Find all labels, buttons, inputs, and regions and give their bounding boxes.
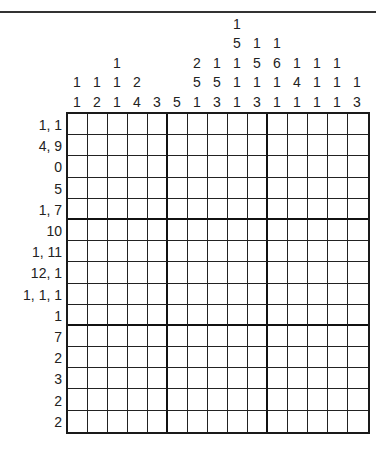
grid-cell-r4-c15[interactable] <box>348 178 368 199</box>
grid-cell-r6-c12[interactable] <box>288 220 308 241</box>
grid-cell-r9-c12[interactable] <box>288 284 308 305</box>
grid-cell-r1-c1[interactable] <box>68 114 88 135</box>
grid-cell-r4-c9[interactable] <box>228 178 248 199</box>
grid-cell-r12-c15[interactable] <box>348 347 368 368</box>
grid-cell-r5-c2[interactable] <box>88 199 108 220</box>
grid-cell-r11-c1[interactable] <box>68 326 88 347</box>
grid-cell-r5-c3[interactable] <box>108 199 128 220</box>
grid-cell-r10-c5[interactable] <box>148 305 168 326</box>
grid-cell-r5-c4[interactable] <box>128 199 148 220</box>
grid-cell-r12-c2[interactable] <box>88 347 108 368</box>
grid-cell-r4-c7[interactable] <box>188 178 208 199</box>
grid-cell-r10-c14[interactable] <box>328 305 348 326</box>
grid-cell-r14-c11[interactable] <box>268 389 288 410</box>
grid-cell-r6-c5[interactable] <box>148 220 168 241</box>
grid-cell-r5-c7[interactable] <box>188 199 208 220</box>
grid-cell-r12-c4[interactable] <box>128 347 148 368</box>
grid-cell-r6-c14[interactable] <box>328 220 348 241</box>
grid-cell-r5-c10[interactable] <box>248 199 268 220</box>
grid-cell-r12-c11[interactable] <box>268 347 288 368</box>
grid-cell-r14-c15[interactable] <box>348 389 368 410</box>
grid-cell-r4-c12[interactable] <box>288 178 308 199</box>
grid-cell-r15-c9[interactable] <box>228 411 248 432</box>
grid-cell-r1-c7[interactable] <box>188 114 208 135</box>
grid-cell-r4-c2[interactable] <box>88 178 108 199</box>
grid-cell-r4-c4[interactable] <box>128 178 148 199</box>
grid-cell-r13-c8[interactable] <box>208 368 228 389</box>
grid-cell-r3-c10[interactable] <box>248 156 268 177</box>
grid-cell-r7-c1[interactable] <box>68 241 88 262</box>
grid-cell-r4-c6[interactable] <box>168 178 188 199</box>
grid-cell-r13-c12[interactable] <box>288 368 308 389</box>
grid-cell-r1-c14[interactable] <box>328 114 348 135</box>
grid-cell-r4-c1[interactable] <box>68 178 88 199</box>
grid-cell-r9-c7[interactable] <box>188 284 208 305</box>
grid-cell-r10-c9[interactable] <box>228 305 248 326</box>
grid-cell-r8-c14[interactable] <box>328 262 348 283</box>
grid-cell-r5-c1[interactable] <box>68 199 88 220</box>
grid-cell-r3-c6[interactable] <box>168 156 188 177</box>
grid-cell-r12-c7[interactable] <box>188 347 208 368</box>
grid-cell-r4-c14[interactable] <box>328 178 348 199</box>
grid-cell-r11-c5[interactable] <box>148 326 168 347</box>
grid-cell-r11-c4[interactable] <box>128 326 148 347</box>
grid-cell-r12-c3[interactable] <box>108 347 128 368</box>
grid-cell-r6-c4[interactable] <box>128 220 148 241</box>
grid-cell-r6-c13[interactable] <box>308 220 328 241</box>
grid-cell-r13-c15[interactable] <box>348 368 368 389</box>
grid-cell-r4-c13[interactable] <box>308 178 328 199</box>
grid-cell-r11-c11[interactable] <box>268 326 288 347</box>
grid-cell-r6-c3[interactable] <box>108 220 128 241</box>
grid-cell-r13-c2[interactable] <box>88 368 108 389</box>
grid-cell-r1-c4[interactable] <box>128 114 148 135</box>
grid-cell-r7-c14[interactable] <box>328 241 348 262</box>
grid-cell-r7-c6[interactable] <box>168 241 188 262</box>
grid-cell-r2-c6[interactable] <box>168 135 188 156</box>
grid-cell-r10-c2[interactable] <box>88 305 108 326</box>
grid-cell-r3-c3[interactable] <box>108 156 128 177</box>
grid-cell-r15-c6[interactable] <box>168 411 188 432</box>
grid-cell-r7-c11[interactable] <box>268 241 288 262</box>
grid-cell-r8-c7[interactable] <box>188 262 208 283</box>
grid-cell-r6-c6[interactable] <box>168 220 188 241</box>
grid-cell-r12-c6[interactable] <box>168 347 188 368</box>
grid-cell-r13-c10[interactable] <box>248 368 268 389</box>
grid-cell-r13-c14[interactable] <box>328 368 348 389</box>
grid-cell-r2-c8[interactable] <box>208 135 228 156</box>
grid-cell-r5-c6[interactable] <box>168 199 188 220</box>
grid-cell-r3-c4[interactable] <box>128 156 148 177</box>
grid-cell-r14-c12[interactable] <box>288 389 308 410</box>
grid-cell-r8-c6[interactable] <box>168 262 188 283</box>
grid-cell-r1-c2[interactable] <box>88 114 108 135</box>
grid-cell-r7-c3[interactable] <box>108 241 128 262</box>
grid-cell-r13-c5[interactable] <box>148 368 168 389</box>
grid-cell-r10-c1[interactable] <box>68 305 88 326</box>
grid-cell-r1-c6[interactable] <box>168 114 188 135</box>
grid-cell-r15-c1[interactable] <box>68 411 88 432</box>
grid-cell-r1-c15[interactable] <box>348 114 368 135</box>
grid-cell-r4-c11[interactable] <box>268 178 288 199</box>
grid-cell-r2-c1[interactable] <box>68 135 88 156</box>
grid-cell-r10-c13[interactable] <box>308 305 328 326</box>
grid-cell-r3-c15[interactable] <box>348 156 368 177</box>
grid-cell-r3-c2[interactable] <box>88 156 108 177</box>
grid-cell-r12-c8[interactable] <box>208 347 228 368</box>
grid-cell-r10-c8[interactable] <box>208 305 228 326</box>
grid-cell-r12-c12[interactable] <box>288 347 308 368</box>
grid-cell-r3-c13[interactable] <box>308 156 328 177</box>
grid-cell-r13-c1[interactable] <box>68 368 88 389</box>
grid-cell-r10-c6[interactable] <box>168 305 188 326</box>
grid-cell-r11-c6[interactable] <box>168 326 188 347</box>
grid-cell-r6-c10[interactable] <box>248 220 268 241</box>
grid-cell-r15-c13[interactable] <box>308 411 328 432</box>
grid-cell-r14-c1[interactable] <box>68 389 88 410</box>
grid-cell-r15-c2[interactable] <box>88 411 108 432</box>
grid-cell-r14-c6[interactable] <box>168 389 188 410</box>
grid-cell-r15-c8[interactable] <box>208 411 228 432</box>
grid-cell-r5-c8[interactable] <box>208 199 228 220</box>
grid-cell-r8-c5[interactable] <box>148 262 168 283</box>
grid-cell-r9-c15[interactable] <box>348 284 368 305</box>
grid-cell-r5-c9[interactable] <box>228 199 248 220</box>
grid-cell-r1-c11[interactable] <box>268 114 288 135</box>
grid-cell-r1-c13[interactable] <box>308 114 328 135</box>
